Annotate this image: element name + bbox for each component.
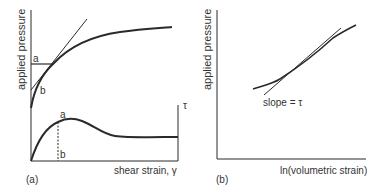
- y-axis-label: applied pressure: [15, 9, 27, 90]
- pressure-curve: [253, 25, 356, 89]
- panel-a-tag: (a): [26, 174, 38, 185]
- tau-curve: [31, 119, 178, 161]
- pressure-curve: [31, 27, 172, 108]
- point-b-upper: b: [40, 85, 46, 96]
- x-axis-label: ln(volumetric strain): [280, 165, 367, 176]
- panel-a: applied pressure a b a b τ shear strain,…: [15, 9, 187, 185]
- point-b-lower: b: [60, 149, 66, 160]
- slope-annotation: slope = τ: [263, 97, 302, 108]
- point-a-upper: a: [33, 53, 39, 64]
- panel-b-tag: (b): [216, 174, 228, 185]
- tangent-line: [264, 28, 341, 95]
- tau-axis-label: τ: [183, 100, 187, 111]
- tangent-line: [31, 19, 87, 90]
- x-axis-label: shear strain, γ: [114, 165, 177, 176]
- y-axis-label: applied pressure: [201, 9, 213, 90]
- figure: applied pressure a b a b τ shear strain,…: [0, 0, 377, 192]
- panel-b: applied pressure slope = τ ln(volumetric…: [201, 9, 367, 185]
- point-a-lower: a: [60, 109, 66, 120]
